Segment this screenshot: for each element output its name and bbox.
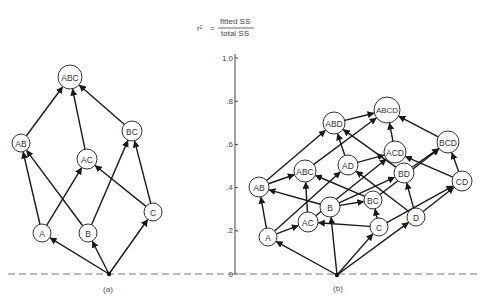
node-abc: ABC [58,65,82,89]
node-b: B [79,224,97,242]
node-a: A [33,224,51,242]
formula-lhs: r² [197,24,203,33]
node-label: ACD [386,148,404,158]
node-label: D [413,213,419,223]
node-label: BD [398,169,410,179]
edge-a-to-ab [261,197,267,228]
node-bc: BC [122,121,142,141]
node-label: BC [367,196,379,206]
node-bc: BC [364,191,382,209]
node-label: AB [15,139,27,149]
node-label: AC [302,218,314,228]
edge-ac-to-abc [73,89,85,149]
formula-equals: = [210,24,215,33]
node-acd: ACD [384,141,406,163]
node-ad: AD [338,155,358,175]
edge-b-to-bc [340,202,364,206]
edge-d-to-bd [407,183,414,208]
edge-a-to-ab [23,152,40,224]
edge-origin-to-b [331,217,337,275]
node-label: C [376,223,382,233]
edge-bc-to-abc [316,176,365,197]
model-lattice-figure: 1.0.8.6.4.20 r² = fitted SS total SS ABC… [0,0,484,299]
node-c: C [370,218,388,236]
edge-origin-to-a [276,242,337,275]
axis-tick-label: .8 [226,97,233,106]
node-label: B [327,203,333,213]
edges [261,113,459,275]
r-squared-axis: 1.0.8.6.4.20 [222,54,238,279]
edge-c-to-bc [135,141,151,203]
node-label: BC [126,127,138,137]
axis-tick-label: 0 [229,270,234,279]
edge-bc-to-abc [79,85,124,124]
edge-abd-to-abcd [345,113,374,120]
edge-bcd-to-abcd [399,116,438,137]
node-label: CD [456,177,468,187]
edge-origin-to-c [337,234,373,275]
r-squared-formula: r² = fitted SS total SS [197,17,254,38]
axis-ticks: 1.0.8.6.4.20 [222,54,238,279]
edge-origin-to-c [109,220,148,274]
node-label: ABCD [376,106,398,115]
node-label: AC [81,155,93,165]
node-label: ABD [325,119,342,129]
node-abc: ABC [294,160,316,182]
panel-b-four-factor-lattice: ABCDABACADBCBDCDABCABDACDBCDABCD [249,97,472,277]
node-d: D [407,208,425,226]
axis-tick-label: .4 [226,183,233,192]
edge-ab-to-abc [26,87,62,136]
node-c: C [144,203,162,221]
formula-numerator: fitted SS [220,17,250,26]
node-ac: AC [77,149,97,169]
edge-ac-to-abc [306,182,308,212]
edge-c-to-bc [375,209,377,218]
node-label: A [39,229,45,239]
node-label: ABC [61,73,78,83]
node-b: B [320,197,340,217]
node-ab: AB [249,177,269,197]
edges [23,85,151,274]
axis-tick-label: .6 [226,140,233,149]
axis-tick-label: .2 [226,226,233,235]
panel-a-three-factor-lattice: ABCABACBCABC [12,65,162,276]
node-ab: AB [12,134,30,152]
node-bd: BD [394,163,414,183]
origin-point [335,273,339,277]
node-a: A [259,228,277,246]
origin-point [107,272,111,276]
node-ac: AC [298,212,318,232]
node-abd: ABD [323,112,345,134]
node-cd: CD [452,171,472,191]
node-label: AB [253,183,265,193]
node-label: ABC [296,167,313,177]
panel-b-caption: (b) [333,284,343,293]
node-label: BCD [439,138,457,148]
node-label: B [85,229,91,239]
axis-tick-label: 1.0 [222,54,234,63]
node-label: C [150,208,156,218]
node-label: A [265,233,271,243]
edge-c-to-ac [318,223,370,227]
edge-cd-to-bcd [452,153,459,172]
node-bcd: BCD [437,131,459,153]
edge-acd-to-abcd [390,123,393,141]
edge-b-to-ab [27,151,83,226]
panel-a-caption: (a) [103,285,113,294]
edge-b-to-bc [92,141,128,225]
node-abcd: ABCD [374,97,400,123]
node-label: AD [342,161,354,171]
formula-denominator: total SS [221,29,249,38]
